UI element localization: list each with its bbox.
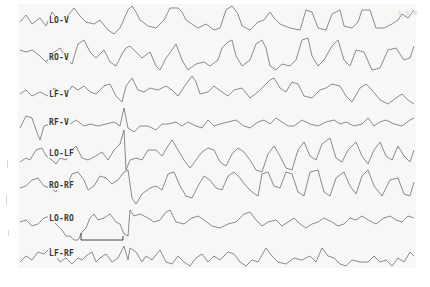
channel-label-ro-rf: RO-RF (48, 181, 75, 190)
eeg-traces (0, 0, 430, 287)
channel-label-lf-rf: LF-RF (48, 249, 75, 258)
corner-mark: 5 5 8 (398, 10, 418, 16)
channel-label-lo-lf: LO-LF (48, 149, 75, 158)
trace-lf-v (20, 76, 414, 104)
margin-mark (6, 195, 7, 205)
trace-ro-rf (20, 170, 414, 204)
trace-lo-v (20, 6, 414, 34)
trace-lo-ro (20, 210, 414, 240)
margin-mark (7, 160, 8, 168)
trace-rf-v (20, 108, 414, 140)
trace-lf-rf (20, 246, 414, 266)
channel-label-ro-v: RO-V (48, 53, 70, 62)
channel-label-lf-v: LF-V (48, 90, 70, 99)
trace-lo-lf (20, 130, 414, 172)
margin-mark (8, 230, 9, 236)
calibration-bracket (81, 233, 123, 240)
channel-label-lo-ro: LO-RO (48, 214, 75, 223)
channel-label-lo-v: LO-V (48, 16, 70, 25)
trace-ro-v (20, 38, 414, 70)
channel-label-rf-v: RF-V (48, 118, 70, 127)
